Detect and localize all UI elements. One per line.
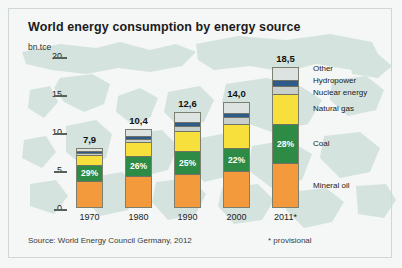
stacked-bar[interactable]: 26% (125, 129, 152, 208)
bar-segment-nuclear-energy[interactable] (273, 86, 298, 94)
y-axis-tick-label: 5 (28, 165, 62, 175)
bar-segment-coal[interactable]: 25% (175, 151, 200, 175)
bar-total-label: 12,6 (158, 98, 218, 109)
bar-segment-natural-gas[interactable] (273, 94, 298, 125)
legend-item-hydropower[interactable]: Hydropower (313, 76, 356, 85)
bar-segment-nuclear-energy[interactable] (224, 117, 249, 124)
stacked-bar[interactable]: 25% (174, 112, 201, 208)
bar-segment-other[interactable] (273, 68, 298, 80)
bar-segment-other[interactable] (175, 113, 200, 121)
bar-segment-mineral-oil[interactable] (77, 181, 102, 207)
bar-total-label: 7,9 (60, 134, 120, 145)
bar-segment-coal[interactable]: 29% (77, 165, 102, 181)
coal-share-label: 26% (126, 161, 151, 171)
bar-total-label: 18,5 (256, 53, 316, 64)
y-axis-tick-label: 20 (28, 51, 62, 61)
y-axis-tick-label: 10 (28, 127, 62, 137)
y-axis-tick-label: 15 (28, 89, 62, 99)
provisional-note: * provisional (268, 236, 312, 245)
bar-segment-coal[interactable]: 26% (126, 156, 151, 176)
stacked-bar[interactable]: 22% (223, 102, 250, 208)
legend-item-natural-gas[interactable]: Natural gas (313, 104, 354, 113)
y-axis-tick-mark (54, 171, 67, 173)
coal-share-label: 28% (273, 139, 298, 149)
bar-segment-mineral-oil[interactable] (126, 176, 151, 207)
bar-segment-coal[interactable]: 22% (224, 148, 249, 171)
chart-card: World energy consumption by energy sourc… (0, 0, 402, 268)
y-axis-tick-mark (54, 57, 67, 59)
coal-share-label: 22% (224, 155, 249, 165)
y-axis-tick-label: 0 (28, 203, 62, 213)
plot-area: 0510152029%7,9197026%10,4198025%12,61990… (28, 56, 308, 208)
coal-share-label: 29% (77, 168, 102, 178)
bar-segment-other[interactable] (224, 103, 249, 113)
chart-legend: OtherHydropowerNuclear energyNatural gas… (313, 56, 397, 208)
bar-segment-mineral-oil[interactable] (224, 171, 249, 207)
coal-share-label: 25% (175, 158, 200, 168)
y-axis-tick-mark (54, 209, 67, 211)
legend-item-nuclear-energy[interactable]: Nuclear energy (313, 88, 367, 97)
bar-segment-natural-gas[interactable] (77, 155, 102, 165)
source-note: Source: World Energy Council Germany, 20… (28, 236, 192, 245)
page-title: World energy consumption by energy sourc… (28, 20, 301, 34)
legend-item-other[interactable]: Other (313, 64, 333, 73)
bar-segment-mineral-oil[interactable] (273, 163, 298, 207)
bar-segment-natural-gas[interactable] (126, 142, 151, 156)
bar-total-label: 10,4 (109, 115, 169, 126)
bar-segment-mineral-oil[interactable] (175, 174, 200, 207)
bar-segment-natural-gas[interactable] (175, 131, 200, 150)
x-axis-tick-label: 2011* (256, 212, 316, 222)
stacked-bar[interactable]: 28% (272, 67, 299, 208)
legend-item-mineral-oil[interactable]: Mineral oil (313, 181, 349, 190)
stacked-bar[interactable]: 29% (76, 148, 103, 208)
y-axis-tick-mark (54, 95, 67, 97)
legend-item-coal[interactable]: Coal (313, 138, 329, 147)
bar-segment-natural-gas[interactable] (224, 124, 249, 148)
bar-segment-coal[interactable]: 28% (273, 124, 298, 163)
bar-total-label: 14,0 (207, 88, 267, 99)
